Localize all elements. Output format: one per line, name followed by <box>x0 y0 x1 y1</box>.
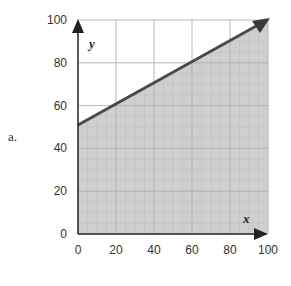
svg-text:40: 40 <box>54 141 68 155</box>
fine-grid <box>78 25 268 234</box>
svg-text:80: 80 <box>223 243 237 257</box>
y-axis-arrow-icon <box>72 19 84 33</box>
svg-text:20: 20 <box>109 243 123 257</box>
part-label: a. <box>8 129 17 144</box>
inequality-graph: 020406080100 020406080100 y x a. <box>0 0 291 286</box>
svg-text:20: 20 <box>54 184 68 198</box>
svg-text:100: 100 <box>47 13 67 27</box>
svg-text:40: 40 <box>147 243 161 257</box>
svg-text:80: 80 <box>54 56 68 70</box>
y-axis-label: y <box>87 36 95 51</box>
svg-text:0: 0 <box>60 227 67 241</box>
svg-text:100: 100 <box>258 243 278 257</box>
svg-text:0: 0 <box>75 243 82 257</box>
x-tick-labels: 020406080100 <box>75 243 279 257</box>
x-axis-label: x <box>242 211 250 226</box>
svg-text:60: 60 <box>185 243 199 257</box>
svg-text:60: 60 <box>54 99 68 113</box>
y-tick-labels: 020406080100 <box>47 13 67 241</box>
